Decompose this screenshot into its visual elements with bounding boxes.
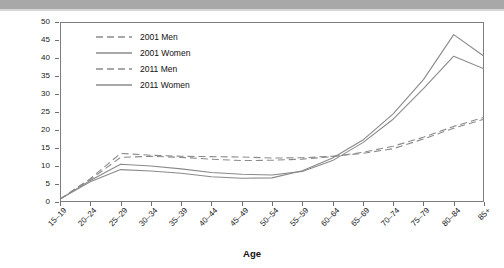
legend-item[interactable]: 2011 Men (96, 62, 190, 75)
y-axis-tick-label: 10 (22, 162, 50, 170)
x-axis-tick-mark (333, 202, 334, 206)
series-line (60, 117, 484, 199)
legend-item[interactable]: 2001 Men (96, 30, 190, 43)
legend-item[interactable]: 2001 Women (96, 46, 190, 59)
legend-item-label: 2011 Women (140, 80, 190, 90)
solid-line-icon (96, 80, 132, 90)
legend-item-label: 2001 Men (140, 32, 178, 42)
x-axis-tick-mark (121, 202, 122, 206)
y-axis-tick-label: 35 (22, 72, 50, 80)
y-axis-tick-label: 5 (22, 180, 50, 188)
y-axis-tick-mark (55, 58, 59, 59)
y-axis-tick-label: 30 (22, 90, 50, 98)
series-line (60, 119, 484, 199)
y-axis-tick-mark (55, 76, 59, 77)
top-banner (0, 0, 504, 9)
y-axis-tick-mark (55, 112, 59, 113)
chart-legend: 2001 Men2001 Women2011 Men2011 Women (96, 30, 190, 94)
y-axis-tick-label: 45 (22, 36, 50, 44)
y-axis-tick-label: 20 (22, 126, 50, 134)
y-axis-tick-mark (55, 22, 59, 23)
solid-line-icon (96, 48, 132, 58)
y-axis-tick-label: 50 (22, 18, 50, 26)
chart-screenshot: Percent 05101520253035404550 15–1920–242… (0, 0, 504, 268)
dashed-line-icon (96, 64, 132, 74)
legend-item[interactable]: 2011 Women (96, 78, 190, 91)
y-axis-tick-label: 15 (22, 144, 50, 152)
y-axis-tick-mark (55, 202, 59, 203)
top-banner-edge (0, 9, 504, 11)
y-axis-tick-mark (55, 130, 59, 131)
y-axis-tick-mark (55, 40, 59, 41)
y-axis-tick-mark (55, 166, 59, 167)
y-axis-tick-label: 0 (22, 198, 50, 206)
x-axis-tick-mark (242, 202, 243, 206)
y-axis-tick-label: 25 (22, 108, 50, 116)
dashed-line-icon (96, 32, 132, 42)
y-axis-tick-mark (55, 94, 59, 95)
x-axis-tick-mark (454, 202, 455, 206)
legend-item-label: 2001 Women (140, 48, 190, 58)
legend-item-label: 2011 Men (140, 64, 177, 74)
y-axis-tick-mark (55, 148, 59, 149)
x-axis-title: Age (0, 248, 504, 259)
y-axis-tick-label: 40 (22, 54, 50, 62)
y-axis-tick-mark (55, 184, 59, 185)
